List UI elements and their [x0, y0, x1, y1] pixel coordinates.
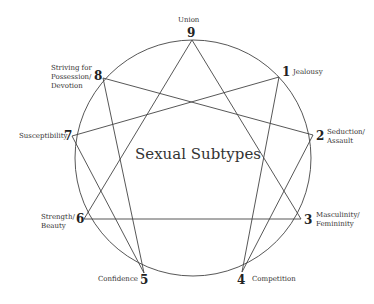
point-number-9: 9	[187, 27, 195, 39]
point-number-1: 1	[282, 66, 290, 78]
point-number-6: 6	[76, 213, 84, 225]
point-label-9: Union	[178, 16, 199, 25]
hexad-figure	[72, 77, 313, 273]
point-label-8: Striving for Possession/ Devotion	[51, 64, 92, 91]
point-number-5: 5	[140, 274, 148, 286]
point-label-6: Strength/ Beauty	[41, 213, 75, 231]
point-label-2: Seduction/ Assault	[327, 128, 365, 146]
point-number-2: 2	[316, 130, 324, 142]
point-label-7: Susceptibility	[19, 132, 67, 141]
point-label-1: Jealousy	[293, 68, 323, 77]
point-number-4: 4	[237, 274, 245, 286]
point-number-8: 8	[94, 70, 102, 82]
diagram-title: Sexual Subtypes	[135, 145, 261, 163]
point-label-4: Competition	[252, 275, 296, 284]
point-label-3: Masculinity/ Femininity	[316, 211, 360, 229]
point-number-3: 3	[304, 214, 312, 226]
point-label-5: Confidence	[98, 275, 138, 284]
